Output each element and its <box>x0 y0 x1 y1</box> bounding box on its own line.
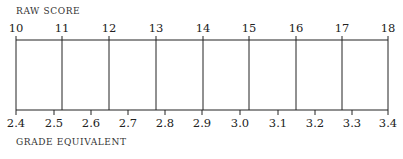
conversion-scale-diagram <box>0 0 403 159</box>
